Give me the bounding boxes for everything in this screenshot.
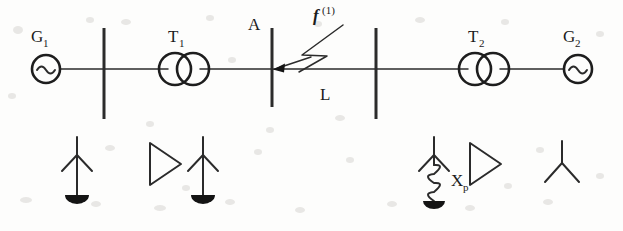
generator-g2-subscript: 2 [575,37,581,49]
line-label: L [320,85,330,104]
fault-marker[interactable]: f (1) [273,4,343,73]
ground-cup-icon [423,201,445,209]
transformer-t1-subscript: 1 [179,37,185,49]
delta-icon [470,143,501,185]
diagram-canvas: G 1 T 1 A f (1) [0,0,623,231]
reactor-label: X [451,171,463,190]
lightning-icon [299,25,343,72]
generator-g1-subscript: 1 [43,37,49,49]
generator-g2-label: G [563,27,575,46]
reactor-coil-icon [428,165,440,201]
generator-g2[interactable]: G 2 [563,27,592,83]
generator-g1-label: G [31,27,43,46]
fault-arrow-head [273,64,285,73]
reactor-subscript: p [463,181,469,193]
transformer-t2-label: T [468,27,479,46]
grounded-reactor-xp[interactable]: X p [419,137,469,209]
transmission-line-l[interactable]: L [320,85,330,104]
grounded-arrester-left[interactable] [62,137,92,204]
transformer-t2-subscript: 2 [479,37,485,49]
power-system-diagram: G 1 T 1 A f (1) [0,0,623,231]
busbar-a[interactable]: A [248,15,272,107]
delta-winding-left[interactable] [150,143,181,185]
grounded-arrester-mid[interactable] [188,137,218,204]
transformer-t1-label: T [168,27,179,46]
delta-icon [150,143,181,185]
ground-cup-icon [65,195,89,204]
wye-winding-right[interactable] [545,141,579,182]
delta-winding-right[interactable] [470,143,501,185]
paper-texture [8,15,604,213]
fault-superscript: (1) [322,4,335,17]
transformer-t2[interactable]: T 2 [459,27,509,85]
ground-cup-icon [191,195,215,204]
transformer-t1[interactable]: T 1 [159,27,209,85]
generator-g1[interactable]: G 1 [31,27,60,83]
busbar-a-label: A [248,15,261,34]
